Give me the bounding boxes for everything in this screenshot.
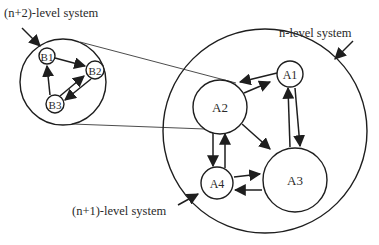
edge-a3-a1 xyxy=(288,88,290,147)
zoom-line-top xyxy=(80,42,236,83)
n-plus-1-pointer-arrow xyxy=(178,194,198,205)
node-a3: A3 xyxy=(263,148,327,212)
n-level-pointer-arrow xyxy=(335,41,353,59)
edge-b1-b2 xyxy=(55,58,85,66)
hierarchical-system-diagram: B1 B2 B3 (n+2)-level system n-level syst… xyxy=(0,0,379,245)
node-a4-label: A4 xyxy=(210,177,225,191)
node-b1-label: B1 xyxy=(41,51,54,63)
node-a2: A2 xyxy=(193,80,247,134)
edge-a1-a2 xyxy=(240,73,277,82)
node-b3: B3 xyxy=(46,95,64,113)
zoom-line-bottom xyxy=(72,124,205,129)
edge-b3-b2 xyxy=(60,76,84,96)
node-a4: A4 xyxy=(201,167,233,199)
node-a1: A1 xyxy=(277,61,303,87)
edge-a1-a3 xyxy=(295,88,300,146)
n-level-system-boundary xyxy=(163,29,367,233)
n-plus-1-label: (n+1)-level system xyxy=(72,204,166,218)
node-b2-label: B2 xyxy=(89,65,102,77)
n-plus-2-system-boundary xyxy=(20,39,106,125)
edge-a2-a1 xyxy=(244,82,270,93)
edge-a2-a3 xyxy=(242,124,270,149)
n-level-label: n-level system xyxy=(279,26,352,40)
node-b1: B1 xyxy=(39,48,55,64)
node-b3-label: B3 xyxy=(49,99,62,111)
n-plus-2-pointer-arrow xyxy=(22,28,40,46)
node-a3-label: A3 xyxy=(287,173,303,188)
edge-b3-b1 xyxy=(47,66,50,95)
node-b2: B2 xyxy=(86,61,104,79)
n-plus-2-label: (n+2)-level system xyxy=(4,6,98,20)
node-a1-label: A1 xyxy=(283,68,298,82)
edge-a4-a3 xyxy=(234,174,260,177)
node-a2-label: A2 xyxy=(212,100,228,115)
